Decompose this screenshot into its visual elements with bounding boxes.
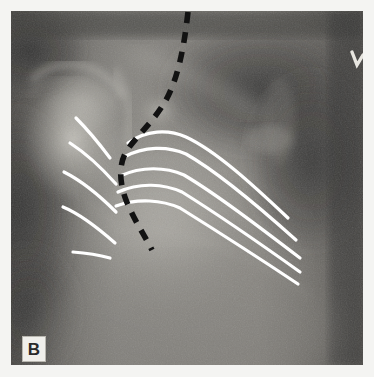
- film-grain: [11, 11, 363, 365]
- figure-panel-b: B: [0, 0, 374, 377]
- panel-label-b: B: [22, 336, 46, 362]
- radiograph-image: [11, 11, 363, 365]
- radiograph-svg: [11, 11, 363, 365]
